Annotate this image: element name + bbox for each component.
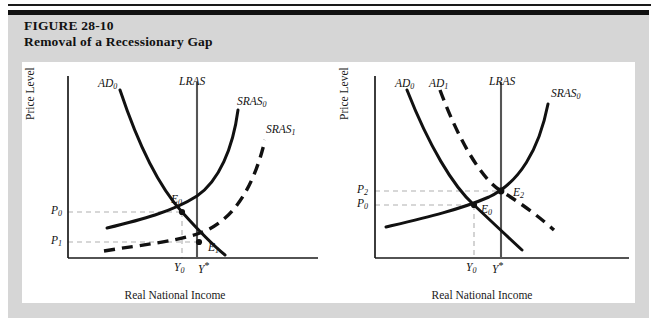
chart-right-svg bbox=[329, 62, 635, 303]
ad0-curve-left bbox=[120, 90, 225, 255]
guide-lines-left bbox=[68, 212, 197, 258]
x-axis-title-left: Real National Income bbox=[22, 289, 328, 301]
curve-label-ad0: AD0 bbox=[395, 78, 414, 91]
chart-plate: AD0 LRAS SRAS0 SRAS1 E0 E1 P0 P1 Y0 Y* P… bbox=[22, 62, 635, 303]
x-tick-y0: Y0 bbox=[174, 262, 184, 275]
axis-lines-left bbox=[68, 76, 318, 258]
chart-panel-right: AD0 AD1 LRAS SRAS0 E0 E2 P2 P0 Y0 Y* Pri… bbox=[329, 62, 635, 303]
y-tick-p1: P1 bbox=[51, 235, 62, 248]
curve-label-lras: LRAS bbox=[179, 76, 205, 88]
chart-panel-left: AD0 LRAS SRAS0 SRAS1 E0 E1 P0 P1 Y0 Y* P… bbox=[22, 62, 328, 303]
e2-point-right bbox=[498, 188, 505, 195]
figure-header-rule bbox=[8, 10, 649, 15]
point-label-e2: E2 bbox=[513, 187, 524, 200]
e0-point-right bbox=[471, 202, 477, 208]
figure-title: Removal of a Recessionary Gap bbox=[24, 34, 584, 50]
x-tick-ystar: Y* bbox=[492, 261, 503, 275]
e1-point-left bbox=[196, 239, 202, 245]
y-tick-p2: P2 bbox=[357, 184, 368, 197]
point-label-e0: E0 bbox=[171, 194, 182, 207]
y-axis-title-right: Price Level bbox=[338, 67, 350, 120]
curve-label-ad0: AD0 bbox=[98, 78, 117, 91]
curve-label-ad1: AD1 bbox=[429, 78, 448, 91]
point-label-e0: E0 bbox=[481, 204, 492, 217]
x-tick-ystar: Y* bbox=[198, 261, 209, 275]
curve-label-sras0: SRAS0 bbox=[551, 88, 581, 101]
figure-container: FIGURE 28-10 Removal of a Recessionary G… bbox=[0, 0, 657, 324]
e0-point-left bbox=[179, 209, 185, 215]
curve-label-sras0: SRAS0 bbox=[237, 96, 267, 109]
y-axis-title-left: Price Level bbox=[24, 67, 36, 120]
y-tick-p0: P0 bbox=[51, 205, 62, 218]
curve-label-sras1: SRAS1 bbox=[266, 124, 296, 137]
x-axis-title-right: Real National Income bbox=[329, 289, 635, 301]
y-tick-p0: P0 bbox=[357, 198, 368, 211]
sras0-curve-left bbox=[107, 110, 238, 228]
point-label-e1: E1 bbox=[208, 242, 219, 255]
figure-number: FIGURE 28-10 bbox=[24, 18, 584, 34]
sras1-curve-left bbox=[104, 140, 265, 251]
figure-caption: FIGURE 28-10 Removal of a Recessionary G… bbox=[24, 18, 584, 49]
ad0-curve-right bbox=[407, 90, 522, 250]
top-hairline-rule bbox=[8, 4, 651, 6]
sras0-curve-right bbox=[386, 104, 548, 227]
x-tick-y0: Y0 bbox=[466, 262, 476, 275]
curve-label-lras: LRAS bbox=[489, 76, 515, 88]
